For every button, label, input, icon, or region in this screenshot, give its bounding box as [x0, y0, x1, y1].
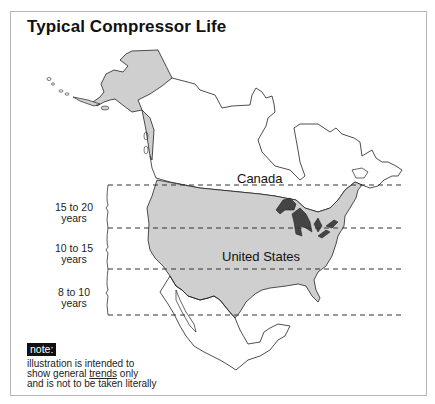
band-label-15-20: 15 to 20 years — [44, 202, 104, 224]
label-canada: Canada — [237, 171, 283, 186]
label-united-states: United States — [222, 249, 300, 264]
note-text: illustration is intended to show general… — [27, 359, 157, 389]
note-tag: note: — [27, 343, 56, 356]
alaska-shape — [93, 50, 172, 112]
band-label-10-15: 10 to 15 years — [44, 243, 104, 265]
band-label-8-10: 8 to 10 years — [44, 287, 104, 309]
